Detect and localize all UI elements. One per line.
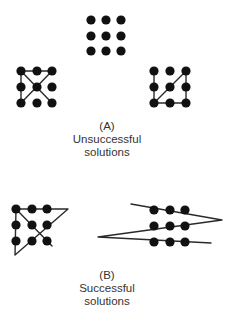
- successful-solution-three-lines-dot: [180, 221, 189, 230]
- successful-solution-four-lines-dot: [42, 220, 51, 229]
- nine-dot-puzzle-grid-dot: [116, 31, 125, 40]
- successful-solution-three-lines-dot: [149, 221, 158, 230]
- unsuccessful-attempt-1-dot: [16, 98, 25, 107]
- successful-solution-three-lines-dot: [165, 237, 174, 246]
- unsuccessful-attempt-2-dot: [165, 82, 174, 91]
- successful-solution-four-lines-path: [15, 209, 68, 255]
- nine-dot-puzzle-grid-dot: [116, 46, 125, 55]
- successful-solution-three-lines-dot: [180, 237, 189, 246]
- nine-dot-puzzle-grid-dot: [116, 15, 125, 24]
- successful-solution-four-lines-dot: [27, 204, 36, 213]
- unsuccessful-attempt-1-dot: [32, 66, 41, 75]
- caption-successful: (B) Successful solutions: [57, 269, 157, 308]
- unsuccessful-attempt-1-dot: [47, 66, 56, 75]
- caption-a-title-line2: solutions: [57, 146, 157, 159]
- successful-solution-three-lines-dot: [149, 237, 158, 246]
- unsuccessful-attempt-2-dot: [181, 98, 190, 107]
- successful-solution-three-lines-dot: [180, 205, 189, 214]
- unsuccessful-attempt-1-dot: [32, 98, 41, 107]
- successful-solution-three-lines-dot: [165, 221, 174, 230]
- unsuccessful-attempt-2-dot: [165, 66, 174, 75]
- successful-solution-four-lines-dot: [42, 236, 51, 245]
- nine-dot-puzzle-grid-dot: [86, 31, 95, 40]
- successful-solution-four-lines-dot: [11, 204, 20, 213]
- unsuccessful-attempt-1-dot: [47, 82, 56, 91]
- unsuccessful-attempt-1-dot: [47, 98, 56, 107]
- nine-dot-puzzle-grid-dot: [101, 46, 110, 55]
- unsuccessful-attempt-2-dot: [181, 66, 190, 75]
- nine-dot-puzzle-grid-dot: [101, 15, 110, 24]
- successful-solution-three-lines-dot: [165, 205, 174, 214]
- unsuccessful-attempt-2-dot: [149, 98, 158, 107]
- unsuccessful-attempt-2-dot: [149, 82, 158, 91]
- nine-dot-puzzle-grid-dot: [86, 15, 95, 24]
- caption-unsuccessful: (A) Unsuccessful solutions: [57, 120, 157, 159]
- unsuccessful-attempt-2-dot: [165, 98, 174, 107]
- unsuccessful-attempt-2-dot: [181, 82, 190, 91]
- unsuccessful-attempt-1-dot: [16, 66, 25, 75]
- caption-a-title-line1: Unsuccessful: [57, 133, 157, 146]
- successful-solution-four-lines-dot: [42, 204, 51, 213]
- caption-b-title-line1: Successful: [57, 282, 157, 295]
- successful-solution-three-lines-path: [98, 204, 222, 243]
- caption-a-label: (A): [57, 120, 157, 133]
- successful-solution-four-lines-dot: [11, 236, 20, 245]
- successful-solution-three-lines-dot: [149, 205, 158, 214]
- unsuccessful-attempt-1-dot: [16, 82, 25, 91]
- unsuccessful-attempt-1-dot: [32, 82, 41, 91]
- caption-b-title-line2: solutions: [57, 295, 157, 308]
- successful-solution-four-lines-dot: [11, 220, 20, 229]
- unsuccessful-attempt-2-dot: [149, 66, 158, 75]
- caption-b-label: (B): [57, 269, 157, 282]
- successful-solution-four-lines-dot: [27, 236, 36, 245]
- nine-dot-puzzle-grid-dot: [101, 31, 110, 40]
- nine-dot-puzzle-grid-dot: [86, 46, 95, 55]
- successful-solution-four-lines-dot: [27, 220, 36, 229]
